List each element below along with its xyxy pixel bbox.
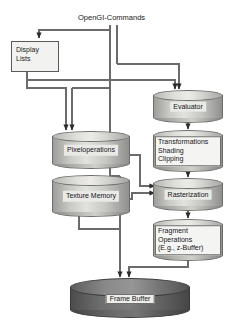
transformations-label-line3: Clipping xyxy=(158,155,218,164)
display-lists-label-line1: Display xyxy=(16,46,58,55)
display-lists-label-line2: Lists xyxy=(16,55,58,64)
texture-memory-label: Texture Memory xyxy=(63,191,119,202)
rasterization-label: Rasterization xyxy=(165,189,212,200)
evaluator-top xyxy=(153,90,223,101)
frame-buffer-label: Frame Buffer xyxy=(106,294,155,304)
evaluator-label: Evaluator xyxy=(170,101,206,112)
node-evaluator[interactable]: Evaluator xyxy=(153,90,223,123)
node-pixeloperations[interactable]: Pixeloperations xyxy=(52,131,130,169)
node-texture-memory[interactable]: Texture Memory xyxy=(52,175,130,217)
node-rasterization[interactable]: Rasterization xyxy=(153,178,223,211)
node-display-lists[interactable]: Display Lists xyxy=(11,41,59,72)
fragment-operations-label-line1: Fragment xyxy=(158,227,218,236)
pixeloperations-top xyxy=(52,131,130,142)
node-frame-buffer[interactable]: Frame Buffer xyxy=(70,278,190,318)
opengl-pipeline-diagram: OpenGI-Commands Display Lists Evaluator … xyxy=(0,0,234,324)
opengl-commands-label: OpenGI-Commands xyxy=(78,13,145,22)
pixeloperations-label: Pixeloperations xyxy=(64,145,118,156)
node-fragment-operations[interactable]: Fragment Operations (E.g., z-Buffer) xyxy=(153,219,223,261)
rasterization-top xyxy=(153,178,223,189)
transformations-label-line1: Transformations xyxy=(158,138,218,147)
texture-memory-top xyxy=(52,175,130,186)
transformations-label: Transformations Shading Clipping xyxy=(155,136,221,166)
transformations-label-line2: Shading xyxy=(158,147,218,156)
fragment-operations-label-line3: (E.g., z-Buffer) xyxy=(158,244,218,253)
node-transformations[interactable]: Transformations Shading Clipping xyxy=(153,130,223,172)
fragment-operations-label: Fragment Operations (E.g., z-Buffer) xyxy=(155,225,221,255)
fragment-operations-label-line2: Operations xyxy=(158,236,218,245)
